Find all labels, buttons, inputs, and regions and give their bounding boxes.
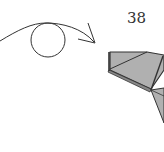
origami-diagram (0, 0, 164, 152)
turn-over-arrow-icon (0, 23, 95, 57)
folded-paper-shape (108, 52, 164, 123)
